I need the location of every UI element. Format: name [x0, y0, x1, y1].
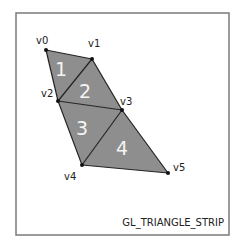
triangle-number-3: 3	[76, 117, 88, 139]
vertex-label-v5: v5	[173, 162, 185, 173]
vertex-label-v1: v1	[88, 38, 100, 49]
caption-label: GL_TRIANGLE_STRIP	[122, 217, 224, 229]
vertex-label-v2: v2	[41, 88, 53, 99]
vertex-dot-v4	[80, 163, 84, 167]
vertex-label-v3: v3	[120, 96, 132, 107]
vertex-dot-v5	[166, 171, 170, 175]
vertex-label-v0: v0	[36, 35, 48, 46]
vertex-dot-v0	[44, 48, 48, 52]
vertex-dot-v3	[120, 108, 124, 112]
triangle-number-4: 4	[116, 137, 128, 159]
vertex-dot-v1	[90, 57, 94, 61]
vertex-dot-v2	[56, 99, 60, 103]
vertex-label-v4: v4	[64, 171, 76, 182]
triangle-number-2: 2	[79, 80, 91, 102]
triangle-strip-diagram: 1234 v0v1v2v3v4v5 GL_TRIANGLE_STRIP	[0, 0, 248, 250]
triangle-number-1: 1	[55, 58, 67, 80]
